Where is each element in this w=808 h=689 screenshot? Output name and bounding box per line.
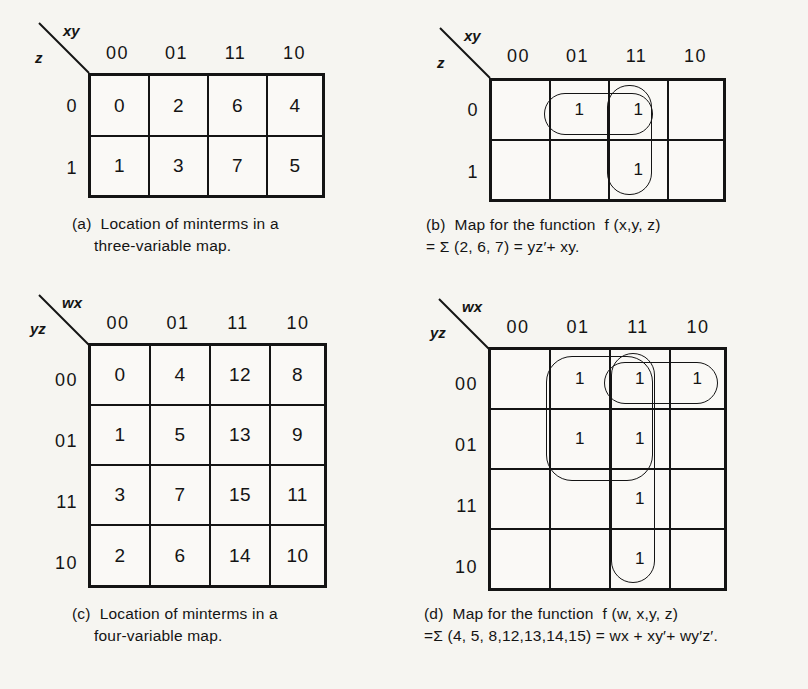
caption-d: (d) Map for the function f (w, x,y, z) =… bbox=[424, 603, 804, 648]
kmap-cell: 2 bbox=[150, 76, 207, 135]
left-variable-label-c: yz bbox=[30, 320, 46, 337]
row-header-d-3: 10 bbox=[422, 557, 478, 578]
kmap-cell: 1 bbox=[610, 141, 667, 199]
col-header-a-3: 10 bbox=[265, 43, 324, 64]
caption-a-line2: three-variable map. bbox=[94, 235, 372, 257]
karnaugh-map-figure: xy z 00 01 11 10 0 1 0 2 6 4 1 3 7 5 bbox=[0, 0, 808, 689]
kmap-cell: 2 bbox=[91, 526, 149, 585]
kmap-grid-d: 1 1 1 1 1 1 1 bbox=[488, 347, 727, 591]
kmap-cell bbox=[491, 470, 549, 528]
kmap-cell: 15 bbox=[211, 466, 269, 524]
row-header-a-1: 1 bbox=[40, 158, 78, 179]
kmap-cell bbox=[492, 81, 549, 139]
kmap-cell: 7 bbox=[151, 466, 209, 524]
top-variable-label-a: xy bbox=[63, 22, 80, 39]
kmap-cell: 5 bbox=[268, 137, 322, 195]
kmap-cell: 4 bbox=[151, 346, 209, 404]
col-header-d-2: 11 bbox=[608, 317, 668, 338]
row-header-d-2: 11 bbox=[422, 496, 478, 517]
left-variable-label-a: z bbox=[35, 49, 43, 66]
caption-c: (c) Location of minterms in a four-varia… bbox=[72, 603, 382, 648]
col-header-b-2: 11 bbox=[607, 46, 666, 67]
col-header-a-1: 01 bbox=[147, 43, 206, 64]
kmap-cell: 1 bbox=[611, 350, 669, 408]
kmap-cell: 6 bbox=[151, 526, 209, 585]
row-header-c-1: 01 bbox=[22, 431, 78, 452]
kmap-cell: 13 bbox=[211, 406, 269, 464]
top-variable-label-c: wx bbox=[62, 294, 82, 311]
kmap-cell bbox=[671, 530, 724, 588]
kmap-cell: 0 bbox=[91, 346, 149, 404]
col-header-c-3: 10 bbox=[268, 313, 328, 334]
kmap-cell: 12 bbox=[211, 346, 269, 404]
col-header-b-3: 10 bbox=[666, 46, 725, 67]
col-header-d-1: 01 bbox=[548, 317, 608, 338]
caption-b-line2: = Σ (2, 6, 7) = yz′+ xy. bbox=[426, 236, 776, 258]
kmap-cell: 1 bbox=[91, 406, 149, 464]
kmap-cell: 11 bbox=[271, 466, 324, 524]
kmap-cell: 1 bbox=[611, 530, 669, 588]
kmap-cell: 1 bbox=[551, 410, 609, 468]
kmap-cell: 3 bbox=[150, 137, 207, 195]
kmap-cell: 1 bbox=[671, 350, 724, 408]
kmap-cell bbox=[491, 410, 549, 468]
caption-d-line1: (d) Map for the function f (w, x,y, z) bbox=[424, 603, 804, 625]
kmap-grid-b: 1 1 1 bbox=[489, 78, 726, 202]
col-header-d-0: 00 bbox=[488, 317, 548, 338]
kmap-cell bbox=[551, 470, 609, 528]
caption-b: (b) Map for the function f (x,y, z) = Σ … bbox=[426, 214, 776, 259]
col-header-a-2: 11 bbox=[206, 43, 265, 64]
caption-d-line2: =Σ (4, 5, 8,12,13,14,15) = wx + xy′+ wy′… bbox=[424, 625, 804, 647]
kmap-cell bbox=[491, 350, 549, 408]
col-header-a-0: 00 bbox=[88, 43, 147, 64]
col-header-c-2: 11 bbox=[208, 313, 268, 334]
kmap-cell bbox=[551, 530, 609, 588]
kmap-cell bbox=[492, 141, 549, 199]
kmap-cell: 1 bbox=[551, 81, 608, 139]
row-header-d-0: 00 bbox=[422, 374, 478, 395]
caption-a: (a) Location of minterms in a three-vari… bbox=[72, 213, 372, 258]
col-header-d-3: 10 bbox=[668, 317, 728, 338]
row-header-c-3: 10 bbox=[22, 553, 78, 574]
col-header-c-1: 01 bbox=[148, 313, 208, 334]
kmap-cell: 1 bbox=[611, 410, 669, 468]
kmap-cell bbox=[491, 530, 549, 588]
kmap-grid-a: 0 2 6 4 1 3 7 5 bbox=[88, 73, 325, 198]
kmap-cell: 9 bbox=[271, 406, 324, 464]
caption-c-line2: four-variable map. bbox=[94, 625, 382, 647]
kmap-cell: 0 bbox=[91, 76, 148, 135]
kmap-cell: 10 bbox=[271, 526, 324, 585]
col-header-c-0: 00 bbox=[88, 313, 148, 334]
row-header-b-1: 1 bbox=[441, 162, 479, 183]
kmap-cell: 5 bbox=[151, 406, 209, 464]
kmap-cell: 8 bbox=[271, 346, 324, 404]
kmap-cell: 14 bbox=[211, 526, 269, 585]
kmap-cell: 1 bbox=[610, 81, 667, 139]
col-header-b-1: 01 bbox=[548, 46, 607, 67]
kmap-cell bbox=[669, 81, 723, 139]
left-variable-label-b: z bbox=[437, 54, 445, 71]
row-header-c-2: 11 bbox=[22, 492, 78, 513]
kmap-cell: 7 bbox=[209, 137, 266, 195]
kmap-cell bbox=[669, 141, 723, 199]
kmap-cell: 4 bbox=[268, 76, 322, 135]
kmap-grid-c: 0 4 12 8 1 5 13 9 3 7 15 11 2 6 14 10 bbox=[88, 343, 327, 588]
kmap-cell bbox=[551, 141, 608, 199]
kmap-cell: 1 bbox=[551, 350, 609, 408]
top-variable-label-b: xy bbox=[464, 27, 481, 44]
kmap-cell: 1 bbox=[91, 137, 148, 195]
row-header-c-0: 00 bbox=[22, 370, 78, 391]
row-header-d-1: 01 bbox=[422, 435, 478, 456]
kmap-cell bbox=[671, 410, 724, 468]
kmap-cell: 3 bbox=[91, 466, 149, 524]
caption-c-line1: (c) Location of minterms in a bbox=[72, 603, 382, 625]
kmap-cell bbox=[671, 470, 724, 528]
caption-b-line1: (b) Map for the function f (x,y, z) bbox=[426, 214, 776, 236]
kmap-cell: 6 bbox=[209, 76, 266, 135]
row-header-a-0: 0 bbox=[40, 96, 78, 117]
row-header-b-0: 0 bbox=[441, 100, 479, 121]
col-header-b-0: 00 bbox=[489, 46, 548, 67]
top-variable-label-d: wx bbox=[462, 298, 482, 315]
left-variable-label-d: yz bbox=[430, 324, 446, 341]
kmap-cell: 1 bbox=[611, 470, 669, 528]
